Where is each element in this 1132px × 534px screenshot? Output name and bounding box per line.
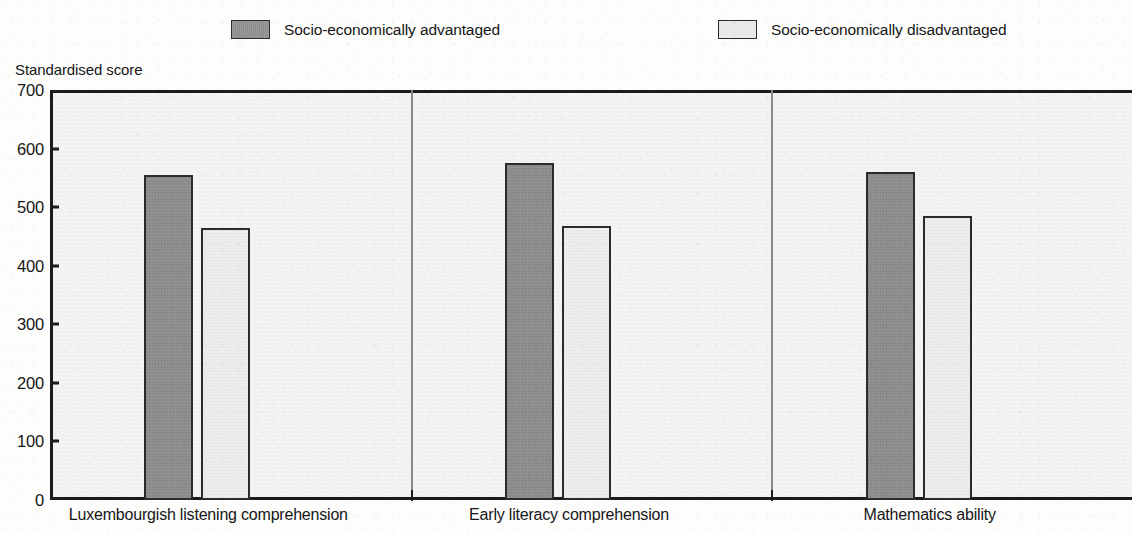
chart-legend: Socio-economically advantaged Socio-econ… (0, 18, 1132, 52)
legend-item-advantaged: Socio-economically advantaged (231, 20, 500, 39)
bar-disadvantaged (562, 226, 611, 500)
x-axis-tick-label: Luxembourgish listening comprehension (69, 506, 348, 524)
y-axis-tick-mark (50, 147, 59, 150)
y-axis-tick-label: 200 (17, 373, 44, 392)
y-axis-tick-label: 0 (35, 491, 44, 510)
y-axis-tick-label: 600 (17, 139, 44, 158)
bar-advantaged (866, 172, 915, 500)
x-axis-tick-mark (771, 490, 773, 501)
group-divider (411, 90, 413, 500)
bar-chart: Socio-economically advantaged Socio-econ… (0, 0, 1132, 534)
x-axis-tick-label: Early literacy comprehension (469, 506, 669, 524)
x-axis-tick-mark (411, 490, 413, 501)
bar-disadvantaged (923, 216, 972, 500)
y-axis-tick-mark (50, 264, 59, 267)
x-axis-tick-label: Mathematics ability (864, 506, 996, 524)
y-axis-tick-label: 300 (17, 315, 44, 334)
dark-swatch-icon (231, 20, 270, 39)
x-axis-tick-labels: Luxembourgish listening comprehensionEar… (50, 506, 1132, 534)
y-axis-tick-label: 100 (17, 432, 44, 451)
y-axis-tick-mark (50, 440, 59, 443)
y-axis-tick-label: 700 (17, 81, 44, 100)
y-axis-tick-mark (50, 206, 59, 209)
y-axis-tick-mark (50, 381, 59, 384)
legend-label-advantaged: Socio-economically advantaged (284, 21, 500, 39)
bar-advantaged (505, 163, 554, 500)
y-axis-tick-labels: 0100200300400500600700 (0, 90, 44, 500)
y-axis-tick-label: 500 (17, 198, 44, 217)
bar-advantaged (144, 175, 193, 500)
y-axis-tick-label: 400 (17, 256, 44, 275)
light-swatch-icon (718, 20, 757, 39)
legend-item-disadvantaged: Socio-economically disadvantaged (718, 20, 1006, 39)
y-axis-tick-mark (50, 323, 59, 326)
group-divider (771, 90, 773, 500)
bar-disadvantaged (201, 228, 250, 500)
bars-layer (50, 90, 1132, 500)
legend-label-disadvantaged: Socio-economically disadvantaged (771, 21, 1006, 39)
y-axis-title: Standardised score (15, 61, 142, 78)
